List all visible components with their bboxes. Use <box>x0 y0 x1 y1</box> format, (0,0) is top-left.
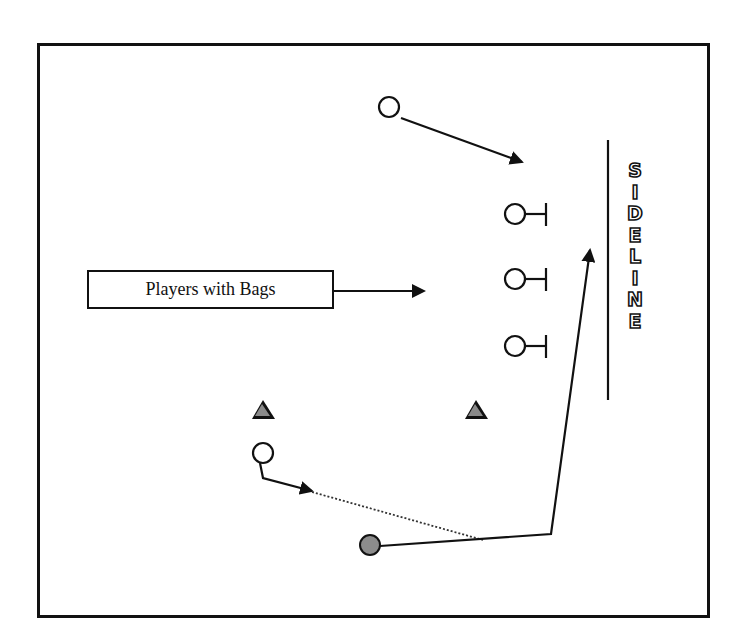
sideline-label: S I D E L I N E <box>622 160 648 332</box>
sideline-letter: E <box>629 311 642 333</box>
pass-dotted-line <box>312 492 483 540</box>
sideline-letter: L <box>629 246 641 268</box>
sideline-letter: N <box>627 289 643 311</box>
route-arrow <box>260 463 312 491</box>
route-arrow <box>380 250 590 546</box>
route-arrow <box>401 118 522 162</box>
players-with-bags-label: Players with Bags <box>87 270 334 309</box>
label-text: Players with Bags <box>146 279 276 300</box>
player-circle-icon <box>253 443 273 463</box>
bag-player-1 <box>505 203 546 226</box>
sideline-letter: I <box>631 182 638 204</box>
player-circle-icon <box>505 204 525 224</box>
lower-player <box>253 443 312 491</box>
cone-icon <box>252 400 275 419</box>
sideline-letter: D <box>627 203 643 225</box>
cone-icon <box>465 400 488 419</box>
top-player <box>379 97 522 162</box>
sideline-letter: I <box>631 268 638 290</box>
player-circle-icon <box>379 97 399 117</box>
player-circle-icon <box>505 269 525 289</box>
sideline-letter: E <box>629 225 642 247</box>
ball-carrier-icon <box>360 535 380 555</box>
bag-player-3 <box>505 335 546 358</box>
player-circle-icon <box>505 336 525 356</box>
sideline-letter: S <box>628 160 642 182</box>
bag-player-2 <box>505 268 546 291</box>
